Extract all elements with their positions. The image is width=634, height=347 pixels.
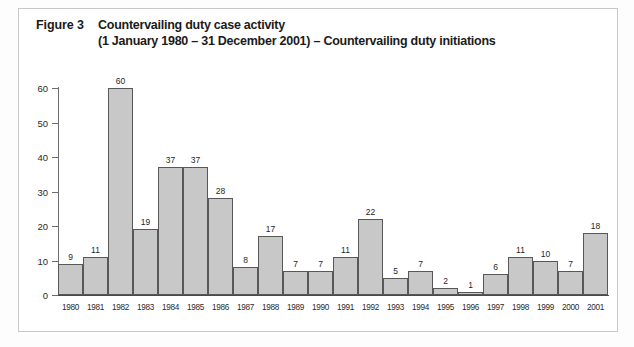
bar-column[interactable]: 60 [108,88,133,295]
bar-rect[interactable] [308,271,333,295]
bar-column[interactable]: 11 [508,88,533,295]
bar-value-label: 11 [333,245,358,255]
bar-rect[interactable] [483,274,508,295]
bar-value-label: 7 [408,259,433,269]
x-axis-tick-label: 1991 [333,303,358,312]
bar-column[interactable]: 7 [408,88,433,295]
bar-value-label: 18 [583,221,608,231]
bar-value-label: 7 [558,259,583,269]
bar-rect[interactable] [583,233,608,295]
bar-column[interactable]: 1 [458,88,483,295]
y-axis-tick-mark [52,157,58,158]
bar-value-label: 17 [258,224,283,234]
bar-column[interactable]: 7 [558,88,583,295]
bar-value-label: 28 [208,186,233,196]
figure-title-line-2: (1 January 1980 – 31 December 2001) – Co… [98,34,496,48]
bar-column[interactable]: 2 [433,88,458,295]
bar-rect[interactable] [158,167,183,295]
y-axis-tick-label: 10 [4,255,48,266]
y-axis-tick-mark [52,295,58,296]
y-axis-tick-label: 60 [4,83,48,94]
bar-rect[interactable] [208,198,233,295]
x-axis-tick-label: 2000 [558,303,583,312]
x-axis-tick-label: 1998 [508,303,533,312]
figure-title-line-1: Countervailing duty case activity [98,18,285,32]
y-axis-tick-mark [52,192,58,193]
bar-series: 9116019373728817771122572161110718 [58,88,608,295]
x-axis-tick-label: 1992 [358,303,383,312]
bar-column[interactable]: 7 [283,88,308,295]
y-axis-tick-label: 20 [4,221,48,232]
x-axis-tick-label: 1989 [283,303,308,312]
bar-column[interactable]: 11 [83,88,108,295]
bar-value-label: 37 [158,155,183,165]
bar-rect[interactable] [508,257,533,295]
x-axis-tick-label: 1985 [183,303,208,312]
bar-value-label: 7 [308,259,333,269]
bar-column[interactable]: 37 [158,88,183,295]
bar-rect[interactable] [383,278,408,295]
bar-value-label: 10 [533,249,558,259]
y-axis-tick-label: 0 [4,290,48,301]
bar-rect[interactable] [283,271,308,295]
bar-value-label: 7 [283,259,308,269]
bar-column[interactable]: 11 [333,88,358,295]
bar-column[interactable]: 19 [133,88,158,295]
bar-column[interactable]: 9 [58,88,83,295]
x-axis-tick-label: 1994 [408,303,433,312]
bar-rect[interactable] [533,261,558,296]
bar-column[interactable]: 7 [308,88,333,295]
x-axis-tick-label: 1983 [133,303,158,312]
bar-value-label: 22 [358,207,383,217]
bar-column[interactable]: 6 [483,88,508,295]
x-axis-labels: 1980198119821983198419851986198719881989… [58,303,608,312]
y-axis-tick-mark [52,88,58,89]
bar-rect[interactable] [233,267,258,295]
x-axis-tick-label: 1996 [458,303,483,312]
title-line-2-row: (1 January 1980 – 31 December 2001) – Co… [36,34,596,48]
bar-value-label: 11 [508,245,533,255]
x-axis-tick-label: 1981 [83,303,108,312]
bar-rect[interactable] [183,167,208,295]
bar-column[interactable]: 8 [233,88,258,295]
x-axis-tick-label: 1986 [208,303,233,312]
y-axis-tick-label: 50 [4,117,48,128]
bar-rect[interactable] [558,271,583,295]
bar-value-label: 19 [133,217,158,227]
x-axis-tick-label: 2001 [583,303,608,312]
bar-value-label: 37 [183,155,208,165]
x-axis-tick-label: 1997 [483,303,508,312]
bar-rect[interactable] [408,271,433,295]
bar-rect[interactable] [458,292,483,295]
figure-title-block: Figure 3 Countervailing duty case activi… [36,18,596,48]
y-axis-tick-mark [52,226,58,227]
bar-column[interactable]: 18 [583,88,608,295]
bar-column[interactable]: 10 [533,88,558,295]
bar-rect[interactable] [258,236,283,295]
bar-rect[interactable] [333,257,358,295]
bar-column[interactable]: 37 [183,88,208,295]
bar-value-label: 5 [383,266,408,276]
bar-rect[interactable] [108,88,133,295]
x-axis-tick-label: 1999 [533,303,558,312]
y-axis-labels: 0102030405060 [0,0,48,347]
bar-rect[interactable] [358,219,383,295]
bar-column[interactable]: 17 [258,88,283,295]
bar-value-label: 2 [433,276,458,286]
x-axis-line [58,295,609,296]
title-line-1-row: Figure 3 Countervailing duty case activi… [36,18,596,32]
x-axis-tick-label: 1980 [58,303,83,312]
y-axis-tick-label: 40 [4,152,48,163]
bar-rect[interactable] [83,257,108,295]
bar-rect[interactable] [433,288,458,295]
x-axis-tick-label: 1990 [308,303,333,312]
bar-rect[interactable] [133,229,158,295]
bar-value-label: 60 [108,76,133,86]
bar-column[interactable]: 5 [383,88,408,295]
bar-rect[interactable] [58,264,83,295]
bar-column[interactable]: 22 [358,88,383,295]
bar-value-label: 6 [483,262,508,272]
bar-column[interactable]: 28 [208,88,233,295]
bar-value-label: 9 [58,252,83,262]
x-axis-tick-label: 1993 [383,303,408,312]
